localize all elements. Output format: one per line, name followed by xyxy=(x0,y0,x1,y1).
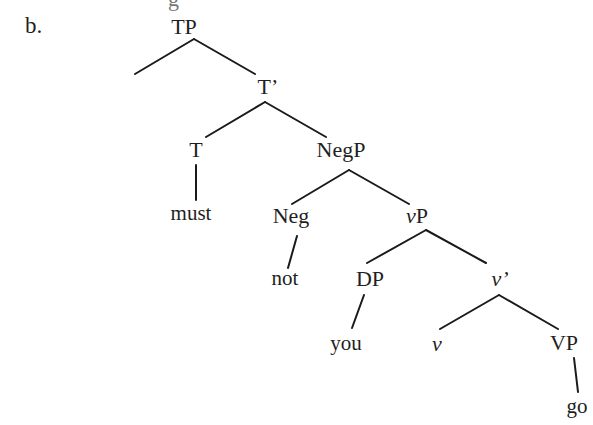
phrase-p-glyph: P xyxy=(416,203,428,228)
node-neg: Neg xyxy=(273,205,310,227)
syntax-tree-figure: g b. TP T’ T must NegP Neg not vP DP you… xyxy=(0,0,593,425)
edge-vP-DP xyxy=(367,230,426,263)
word-go: go xyxy=(567,396,588,417)
node-v-bar: v’ xyxy=(491,268,508,290)
node-dp: DP xyxy=(356,268,384,290)
node-tp: TP xyxy=(171,16,197,38)
node-t: T xyxy=(189,139,202,161)
edge-v_bar-v xyxy=(440,295,499,329)
node-negp: NegP xyxy=(317,139,366,161)
little-v-glyph: v xyxy=(406,203,416,228)
edge-Neg-not xyxy=(288,236,297,268)
edge-T_bar-T xyxy=(206,102,265,137)
node-t-bar: T’ xyxy=(258,76,279,98)
edge-DP-you xyxy=(352,295,364,328)
edge-VP-go xyxy=(574,358,578,392)
edge-TP-(empty-spec) xyxy=(135,39,194,74)
node-vp-little: vP xyxy=(406,205,428,227)
edge-NegP-Neg xyxy=(292,170,349,204)
edge-vP-v_bar xyxy=(426,230,486,263)
edge-T_bar-NegP xyxy=(265,102,326,137)
edge-TP-T_bar xyxy=(194,39,255,74)
word-must: must xyxy=(171,203,212,224)
edge-v_bar-VP xyxy=(499,295,558,329)
node-vp: VP xyxy=(550,332,578,354)
edge-NegP-vP xyxy=(349,170,409,204)
word-not: not xyxy=(272,268,299,289)
word-you: you xyxy=(330,333,362,354)
node-v: v xyxy=(432,333,442,355)
